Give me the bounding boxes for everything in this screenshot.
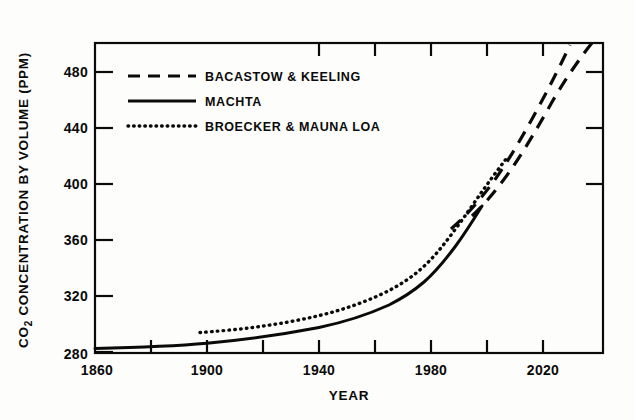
right-axis-ticks	[586, 72, 603, 184]
x-tick-label-1940: 1940	[303, 362, 335, 378]
series-bacastow-keeling-upper-line	[451, 45, 570, 229]
y-tick-label-440: 440	[64, 120, 88, 136]
x-tick-label-1860: 1860	[81, 362, 113, 378]
chart-legend: BACASTOW & KEELING MACHTA BROECKER & MAU…	[128, 70, 380, 134]
y-tick-label-320: 320	[64, 288, 88, 304]
series-broecker-mauna-loa-line	[200, 159, 506, 333]
y-tick-label-280: 280	[64, 346, 88, 362]
y-tick-label-360: 360	[64, 232, 88, 248]
x-tick-labels: 1860 1900 1940 1980 2020	[81, 362, 559, 378]
legend-label-bacastow-keeling: BACASTOW & KEELING	[205, 70, 361, 84]
y-axis-ticks	[95, 72, 113, 352]
legend-label-broecker-mauna-loa: BROECKER & MAUNA LOA	[205, 120, 380, 134]
series-bacastow-keeling-lower-line	[472, 43, 592, 216]
x-axis-title: YEAR	[329, 388, 369, 403]
y-tick-label-400: 400	[64, 176, 88, 192]
y-tick-labels: 480 440 400 360 320 280	[64, 64, 88, 362]
chart-canvas: 480 440 400 360 320 280 1860 1900 1940 1…	[0, 0, 635, 420]
y-tick-label-480: 480	[64, 64, 88, 80]
y-axis-title-post: CONCENTRATION BY VOLUME (PPM)	[16, 52, 31, 320]
x-tick-label-2020: 2020	[527, 362, 559, 378]
co2-concentration-chart: 480 440 400 360 320 280 1860 1900 1940 1…	[0, 0, 635, 420]
x-tick-label-1980: 1980	[415, 362, 447, 378]
svg-text:CO2 CONCENTRATION BY VOLUME (P: CO2 CONCENTRATION BY VOLUME (PPM)	[16, 52, 34, 348]
series-machta-line	[95, 206, 482, 349]
legend-label-machta: MACHTA	[205, 95, 262, 109]
y-axis-title: CO2 CONCENTRATION BY VOLUME (PPM)	[16, 52, 34, 348]
y-axis-title-pre: CO	[16, 326, 31, 348]
top-axis-ticks	[319, 43, 543, 56]
x-tick-label-1900: 1900	[191, 362, 223, 378]
